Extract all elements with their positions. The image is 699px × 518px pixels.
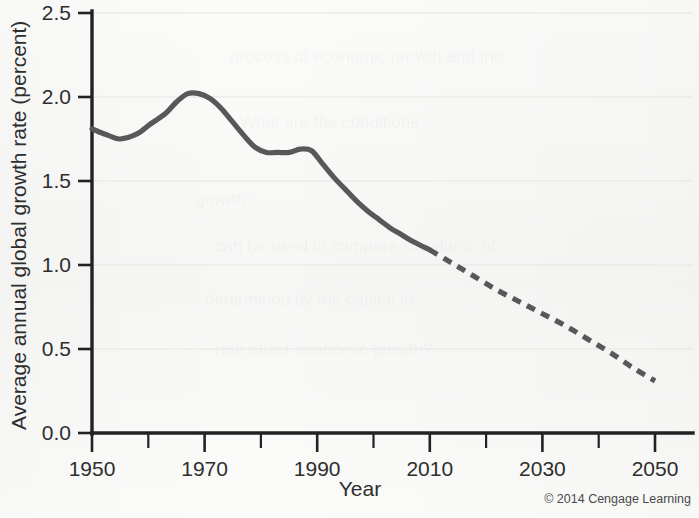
x-tick-label: 1950 <box>69 457 116 480</box>
chart-page: process of economic growth and the What … <box>0 0 699 518</box>
ghost-line-3: can be used to compare standards of <box>215 237 496 256</box>
x-tick-label: 2010 <box>406 457 453 480</box>
x-tick-label: 1990 <box>294 457 341 480</box>
series-projected-line <box>430 250 655 381</box>
y-tick-label: 2.0 <box>42 85 71 108</box>
y-axis-title: Average annual global growth rate (perce… <box>7 21 30 430</box>
x-tick-label: 2050 <box>632 457 679 480</box>
x-tick-label: 2030 <box>519 457 566 480</box>
x-axis-title: Year <box>339 477 381 500</box>
y-axis-tick-labels: 0.00.51.01.52.02.5 <box>42 1 71 444</box>
growth-rate-line-chart: process of economic growth and the What … <box>0 0 699 518</box>
copyright-credit: © 2014 Cengage Learning <box>544 492 691 506</box>
ghost-line-0: process of economic growth and the <box>230 47 503 66</box>
gridlines <box>92 13 693 433</box>
y-tick-label: 0.5 <box>42 337 71 360</box>
ghost-line-1: What are the conditions <box>240 113 419 132</box>
x-tick-label: 1970 <box>181 457 228 480</box>
y-tick-label: 0.0 <box>42 421 71 444</box>
ghost-line-2: growth? <box>195 190 255 209</box>
y-axis-ticks <box>78 13 92 433</box>
y-tick-label: 1.5 <box>42 169 71 192</box>
y-tick-label: 1.0 <box>42 253 71 276</box>
ghost-line-4: determined by the capital to <box>205 290 414 309</box>
y-tick-label: 2.5 <box>42 1 71 24</box>
bleedthrough-text-group: process of economic growth and the What … <box>195 47 503 359</box>
x-axis-ticks <box>92 433 655 452</box>
